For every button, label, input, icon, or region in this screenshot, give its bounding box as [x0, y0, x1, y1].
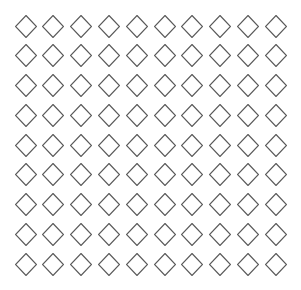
diamond-outline-icon	[209, 193, 231, 216]
grid-cell	[98, 44, 120, 67]
grid-cell	[42, 15, 64, 38]
diamond-outline-icon	[15, 134, 37, 157]
diamond-outline-icon	[265, 163, 287, 186]
grid-cell	[209, 15, 231, 38]
grid-cell	[15, 134, 37, 157]
diamond-outline-icon	[265, 104, 287, 127]
diamond-outline-icon	[15, 223, 37, 246]
diamond-outline-icon	[126, 163, 148, 186]
diamond-outline-icon	[154, 134, 176, 157]
grid-cell	[181, 44, 203, 67]
grid-cell	[237, 163, 259, 186]
grid-cell	[98, 253, 120, 276]
diamond-outline-icon	[15, 193, 37, 216]
grid-cell	[209, 44, 231, 67]
grid-cell	[42, 223, 64, 246]
diamond-outline-icon	[265, 74, 287, 97]
diamond-outline-icon	[70, 104, 92, 127]
diamond-outline-icon	[70, 193, 92, 216]
diamond-outline-icon	[181, 74, 203, 97]
grid-cell	[15, 163, 37, 186]
grid-cell	[154, 15, 176, 38]
diamond-outline-icon	[237, 104, 259, 127]
grid-cell	[15, 223, 37, 246]
diamond-outline-icon	[237, 15, 259, 38]
diamond-outline-icon	[126, 253, 148, 276]
grid-cell	[98, 134, 120, 157]
diamond-outline-icon	[98, 134, 120, 157]
grid-cell	[42, 253, 64, 276]
diamond-outline-icon	[42, 15, 64, 38]
grid-cell	[209, 104, 231, 127]
grid-cell	[181, 15, 203, 38]
diamond-outline-icon	[15, 44, 37, 67]
diamond-outline-icon	[209, 104, 231, 127]
diamond-outline-icon	[209, 15, 231, 38]
grid-cell	[126, 134, 148, 157]
diamond-outline-icon	[237, 253, 259, 276]
diamond-outline-icon	[70, 163, 92, 186]
diamond-outline-icon	[209, 163, 231, 186]
diamond-outline-icon	[265, 253, 287, 276]
grid-cell	[70, 74, 92, 97]
grid-cell	[42, 193, 64, 216]
diamond-outline-icon	[126, 15, 148, 38]
diamond-outline-icon	[237, 74, 259, 97]
diamond-outline-icon	[126, 134, 148, 157]
diamond-outline-icon	[265, 193, 287, 216]
grid-cell	[98, 15, 120, 38]
grid-cell	[42, 104, 64, 127]
diamond-outline-icon	[98, 193, 120, 216]
grid-cell	[98, 74, 120, 97]
grid-cell	[154, 44, 176, 67]
grid-cell	[265, 44, 287, 67]
diamond-outline-icon	[181, 44, 203, 67]
diamond-outline-icon	[42, 253, 64, 276]
diamond-outline-icon	[126, 104, 148, 127]
grid-cell	[15, 15, 37, 38]
diamond-outline-icon	[98, 163, 120, 186]
grid-cell	[237, 134, 259, 157]
grid-cell	[181, 74, 203, 97]
diamond-outline-icon	[209, 134, 231, 157]
diamond-outline-icon	[98, 44, 120, 67]
grid-cell	[70, 163, 92, 186]
grid-cell	[209, 193, 231, 216]
grid-cell	[154, 193, 176, 216]
grid-cell	[154, 223, 176, 246]
grid-cell	[154, 163, 176, 186]
grid-cell	[126, 104, 148, 127]
diamond-outline-icon	[98, 74, 120, 97]
diamond-outline-icon	[154, 44, 176, 67]
grid-cell	[265, 193, 287, 216]
grid-cell	[70, 44, 92, 67]
diamond-outline-icon	[181, 223, 203, 246]
diamond-outline-icon	[70, 44, 92, 67]
grid-cell	[181, 193, 203, 216]
grid-cell	[15, 193, 37, 216]
grid-cell	[126, 223, 148, 246]
diamond-outline-icon	[181, 134, 203, 157]
grid-cell	[70, 193, 92, 216]
diamond-outline-icon	[70, 15, 92, 38]
diamond-outline-icon	[154, 223, 176, 246]
grid-cell	[98, 223, 120, 246]
grid-cell	[126, 44, 148, 67]
diamond-outline-icon	[15, 74, 37, 97]
grid-cell	[237, 193, 259, 216]
grid-cell	[154, 253, 176, 276]
diamond-outline-icon	[154, 74, 176, 97]
diamond-grid	[0, 0, 301, 290]
grid-cell	[265, 74, 287, 97]
diamond-outline-icon	[98, 253, 120, 276]
diamond-outline-icon	[237, 134, 259, 157]
grid-cell	[265, 134, 287, 157]
grid-cell	[42, 44, 64, 67]
diamond-outline-icon	[154, 193, 176, 216]
grid-cell	[209, 74, 231, 97]
diamond-outline-icon	[42, 193, 64, 216]
grid-cell	[70, 15, 92, 38]
diamond-outline-icon	[265, 15, 287, 38]
grid-cell	[209, 223, 231, 246]
grid-cell	[265, 253, 287, 276]
